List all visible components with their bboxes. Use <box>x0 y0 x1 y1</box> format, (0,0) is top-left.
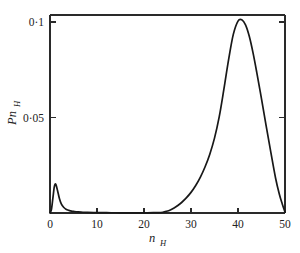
x-tick-label-0: 0 <box>47 218 53 230</box>
x-tick-label-50: 50 <box>279 218 291 230</box>
x-axis-title: n H <box>149 231 167 248</box>
chart-figure: 010203040500·050·1 n H Pn H <box>0 0 300 253</box>
tick-labels: 010203040500·050·1 <box>23 16 291 230</box>
y-axis-title-base: Pn <box>5 111 19 126</box>
x-tick-label-30: 30 <box>185 218 197 230</box>
y-axis-title: Pn H <box>5 100 22 126</box>
y-tick-label-0·1: 0·1 <box>29 16 45 28</box>
x-axis-title-base: n <box>149 231 155 245</box>
data-curve-distribution <box>50 19 285 213</box>
tick-marks <box>50 22 285 213</box>
x-tick-label-10: 10 <box>91 218 103 230</box>
x-axis-title-sub: H <box>159 238 167 248</box>
y-tick-label-0·05: 0·05 <box>23 112 44 124</box>
x-tick-label-20: 20 <box>138 218 150 230</box>
plot-frame <box>50 15 285 213</box>
plot-canvas: 010203040500·050·1 n H Pn H <box>0 0 300 253</box>
y-axis-title-sub: H <box>12 100 22 108</box>
x-tick-label-40: 40 <box>232 218 244 230</box>
